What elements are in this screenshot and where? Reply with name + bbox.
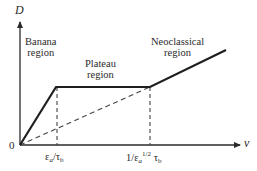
y-axis-label: D bbox=[15, 5, 24, 16]
banana-region-label: Banana region bbox=[25, 36, 57, 58]
plateau-region-line1: Plateau bbox=[85, 58, 116, 69]
banana-region-line2: region bbox=[25, 47, 57, 58]
plateau-region-line2: region bbox=[85, 69, 116, 80]
tick-label-plateau-neoclassical: 1/εa1/2 τb bbox=[126, 149, 161, 167]
tick2-prefix: 1/ bbox=[126, 152, 134, 163]
diffusion-regime-diagram bbox=[0, 0, 257, 171]
neoclassical-region-line1: Neoclassical bbox=[151, 36, 204, 47]
tick2-exponent: 1/2 bbox=[142, 150, 151, 158]
x-axis-label: ν bbox=[244, 138, 249, 149]
origin-diagonal-dashed bbox=[20, 87, 150, 145]
banana-region-line1: Banana bbox=[25, 36, 57, 47]
neoclassical-region-line2: region bbox=[151, 47, 204, 58]
neoclassical-region-label: Neoclassical region bbox=[151, 36, 204, 58]
origin-label: 0 bbox=[9, 140, 15, 151]
tick2-epsilon-sub: a bbox=[139, 157, 143, 165]
tick2-tau-sub: b bbox=[158, 157, 162, 165]
plateau-region-label: Plateau region bbox=[85, 58, 116, 80]
tick1-tau-sub: b bbox=[60, 156, 64, 164]
tick-label-banana-plateau: εa/τb bbox=[45, 151, 64, 166]
